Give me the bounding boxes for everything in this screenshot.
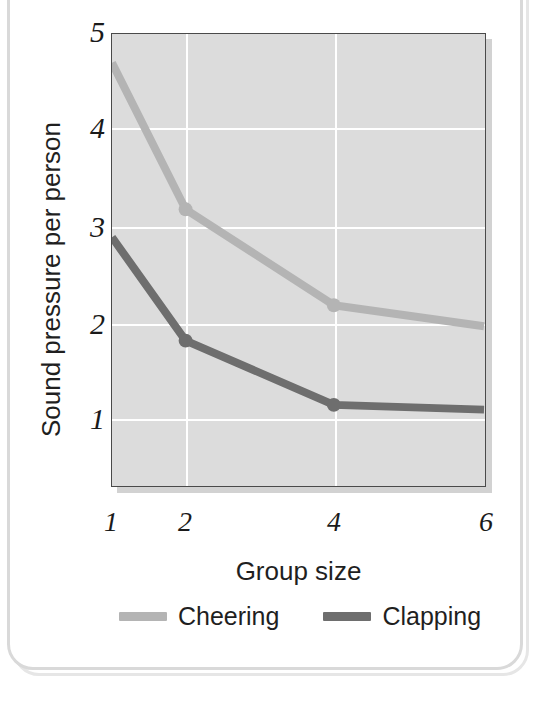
x-tick-label-2: 2 (165, 508, 205, 536)
legend-item-clapping[interactable]: Clapping (323, 604, 481, 629)
series-line-cheering (112, 63, 484, 327)
x-tick-label-1: 1 (91, 508, 131, 536)
x-tick-label-4: 4 (314, 508, 354, 536)
data-point-clapping-2 (179, 334, 193, 348)
data-point-clapping-4 (327, 398, 341, 412)
legend-label-clapping: Clapping (382, 604, 481, 629)
y-axis-title: Sound pressure per person (36, 115, 67, 445)
legend-swatch-clapping (323, 612, 371, 621)
y-tick-label-5: 5 (59, 17, 105, 47)
series-line-clapping (112, 237, 484, 409)
data-point-cheering-4 (327, 298, 341, 312)
chart-legend: Cheering Clapping (100, 604, 500, 629)
legend-label-cheering: Cheering (178, 604, 279, 629)
series-canvas (112, 34, 485, 486)
x-tick-label-6: 6 (466, 508, 506, 536)
page-root: 5 4 3 2 1 1 2 4 6 Sound pressure per per… (0, 0, 537, 703)
plot-area (111, 33, 486, 487)
x-axis-title: Group size (111, 556, 486, 587)
data-point-cheering-2 (179, 202, 193, 216)
legend-item-cheering[interactable]: Cheering (119, 604, 279, 629)
legend-swatch-cheering (119, 612, 167, 621)
line-chart-figure: 5 4 3 2 1 1 2 4 6 Sound pressure per per… (0, 0, 537, 703)
